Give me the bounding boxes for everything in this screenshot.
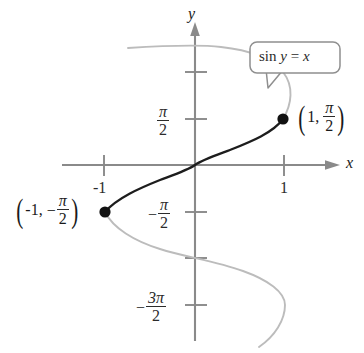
- fraction-denominator: 2: [57, 210, 69, 228]
- y-tick-label-pi-over-2: π 2: [157, 104, 169, 140]
- callout-sin: sin: [259, 48, 277, 64]
- math-figure-sin-y-equals-x: sin y = x y x -1 1 π 2 − π 2 − 3π 2 (1, …: [0, 0, 364, 353]
- x-tick-label-neg-1: -1: [93, 180, 106, 196]
- callout-equals: =: [291, 48, 299, 64]
- y-tick-label-neg-3pi-over-2: − 3π 2: [136, 290, 166, 326]
- minus-sign: −: [47, 203, 56, 219]
- fraction-denominator: 2: [158, 214, 170, 232]
- fraction-numerator: π: [57, 192, 69, 210]
- point-label-x-value: -1: [25, 201, 38, 218]
- paren-open: (: [298, 102, 305, 133]
- x-axis-arrowhead: [325, 160, 340, 170]
- fraction-numerator: π: [158, 196, 170, 214]
- y-axis-arrowhead: [190, 22, 200, 36]
- callout-y: y: [280, 48, 287, 64]
- point-label-upper-body: 1, π2: [307, 100, 335, 136]
- x-axis-label: x: [346, 155, 353, 171]
- y-axis-label: y: [188, 6, 195, 22]
- fraction-numerator: 3π: [146, 289, 166, 307]
- y-tick-label-neg-pi-over-2: − π 2: [148, 197, 170, 233]
- paren-close: ): [71, 195, 78, 226]
- point-marker-lower: [99, 206, 110, 217]
- fraction-denominator: 2: [323, 117, 335, 135]
- point-marker-upper: [277, 113, 288, 124]
- fraction-pi-over-2: π 2: [157, 103, 169, 139]
- fraction-denominator: 2: [157, 121, 169, 139]
- fraction-3pi-over-2: 3π 2: [146, 289, 166, 325]
- minus-sign: −: [136, 300, 145, 316]
- callout-x: x: [303, 48, 310, 64]
- fraction-pi-over-2: π2: [57, 192, 69, 228]
- minus-sign: −: [148, 207, 157, 223]
- point-label-upper: (1, π2): [296, 100, 347, 136]
- x-tick-label-pos-1: 1: [280, 180, 288, 196]
- point-label-lower-body: -1, −π2: [25, 193, 68, 229]
- callout-label: sin y = x: [259, 48, 310, 65]
- paren-open: (: [16, 195, 23, 226]
- fraction-denominator: 2: [146, 307, 166, 325]
- point-label-lower: (-1, −π2): [14, 193, 80, 229]
- fraction-numerator: π: [323, 99, 335, 117]
- fraction-pi-over-2: π2: [323, 99, 335, 135]
- paren-close: ): [337, 102, 344, 133]
- fraction-numerator: π: [157, 103, 169, 121]
- fraction-pi-over-2: π 2: [158, 196, 170, 232]
